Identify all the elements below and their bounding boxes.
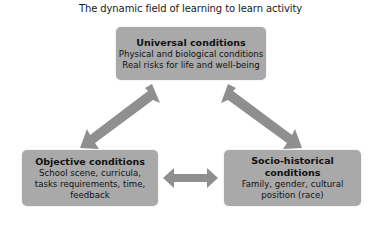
objective-line-1: School scene, curricula, xyxy=(22,168,158,179)
objective-line-3: feedback xyxy=(22,190,158,201)
objective-conditions-box: Objective conditions School scene, curri… xyxy=(22,150,158,206)
socio-line-1: Family, gender, cultural xyxy=(224,179,361,190)
universal-line-1: Physical and biological conditions xyxy=(116,49,266,60)
objective-heading: Objective conditions xyxy=(22,156,158,168)
universal-heading: Universal conditions xyxy=(116,37,266,49)
objective-line-2: tasks requirements, time, xyxy=(22,179,158,190)
socio-line-2: position (race) xyxy=(224,190,361,201)
socio-historical-conditions-box: Socio-historical conditions Family, gend… xyxy=(224,150,361,206)
double-arrow-universal-objective xyxy=(80,84,160,149)
universal-conditions-box: Universal conditions Physical and biolog… xyxy=(116,27,266,80)
double-arrow-universal-socio xyxy=(221,84,302,149)
double-arrow-objective-socio xyxy=(163,168,218,188)
universal-line-2: Real risks for life and well-being xyxy=(116,60,266,71)
socio-heading: Socio-historical conditions xyxy=(224,155,361,179)
